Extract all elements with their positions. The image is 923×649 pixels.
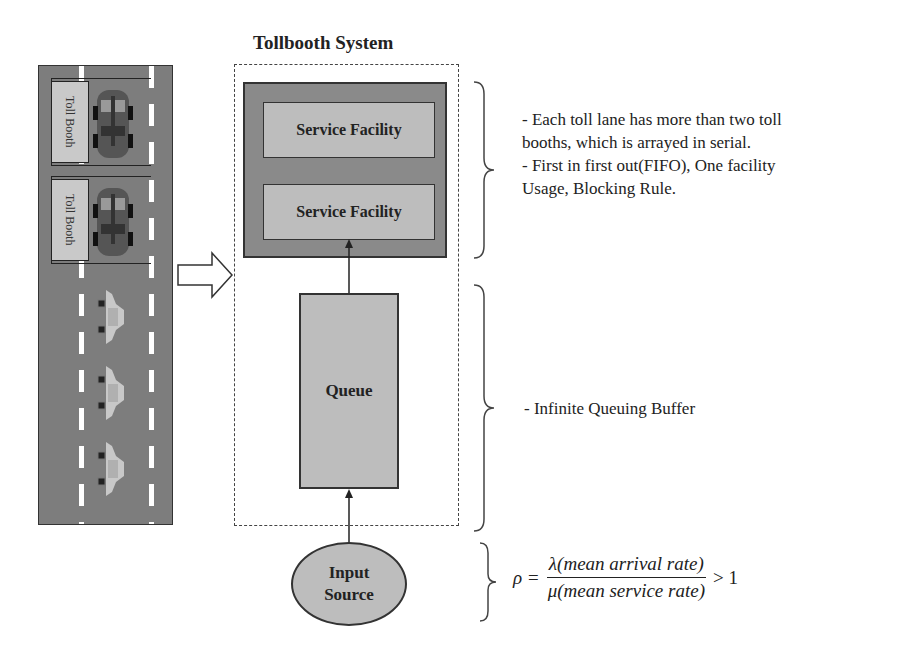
queue-box: Queue (299, 293, 399, 489)
brace-right-icon (470, 80, 506, 260)
formula-fraction: λ(mean arrival rate) μ(mean service rate… (546, 553, 707, 602)
arrow-up-icon (343, 238, 355, 296)
toll-booth-1: Toll Booth (51, 81, 89, 163)
brace-right-icon (470, 283, 506, 533)
traffic-intensity-formula: ρ = λ(mean arrival rate) μ(mean service … (513, 553, 738, 602)
brace-right-icon (476, 541, 506, 623)
car-side-icon (94, 438, 134, 498)
diagram-title: Tollbooth System (253, 32, 393, 54)
input-source-ellipse: Input Source (291, 542, 407, 626)
queue-note: - Infinite Queuing Buffer (524, 397, 695, 420)
car-side-icon (94, 286, 134, 346)
road-lane: Toll Booth Toll Booth (38, 65, 173, 525)
arrow-up-icon (343, 488, 355, 544)
service-notes: - Each toll lane has more than two toll … (522, 108, 782, 200)
car-side-icon (94, 362, 134, 422)
car-top-icon (91, 184, 135, 260)
service-facilities-group: Service Facility Service Facility (243, 82, 447, 258)
block-arrow-right-icon (176, 250, 234, 300)
service-facility-2: Service Facility (263, 184, 435, 240)
service-facility-1: Service Facility (263, 102, 435, 158)
toll-booth-2: Toll Booth (51, 179, 89, 261)
car-top-icon (91, 86, 135, 162)
